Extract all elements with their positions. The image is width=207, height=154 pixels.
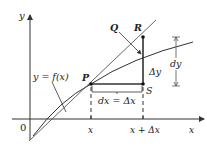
label-S: S bbox=[146, 85, 153, 96]
curve-f bbox=[33, 42, 193, 136]
diagram-canvas: y 0 x x + Δx x y = f(x) P Q R S dx = Δx … bbox=[0, 0, 207, 154]
dy-label: dy bbox=[170, 58, 182, 69]
x-tick-label: x bbox=[88, 125, 93, 135]
dx-label: dx = Δx bbox=[98, 95, 136, 106]
label-R: R bbox=[133, 22, 142, 33]
dx-bracket bbox=[92, 86, 142, 94]
origin-label: 0 bbox=[20, 122, 26, 133]
x-axis-label: x bbox=[189, 125, 194, 135]
label-Q: Q bbox=[110, 22, 119, 33]
q-pointer bbox=[119, 32, 141, 54]
x-plus-dx-tick-label: x + Δx bbox=[130, 125, 160, 135]
point-S bbox=[141, 82, 145, 86]
delta-y-label: Δy bbox=[148, 66, 162, 77]
point-P bbox=[89, 82, 93, 86]
differential-diagram: y 0 x x + Δx x y = f(x) P Q R S dx = Δx … bbox=[0, 0, 207, 154]
point-R bbox=[141, 35, 145, 39]
y-axis-label: y bbox=[18, 10, 25, 21]
label-P: P bbox=[81, 72, 90, 83]
curve-label: y = f(x) bbox=[32, 71, 69, 82]
